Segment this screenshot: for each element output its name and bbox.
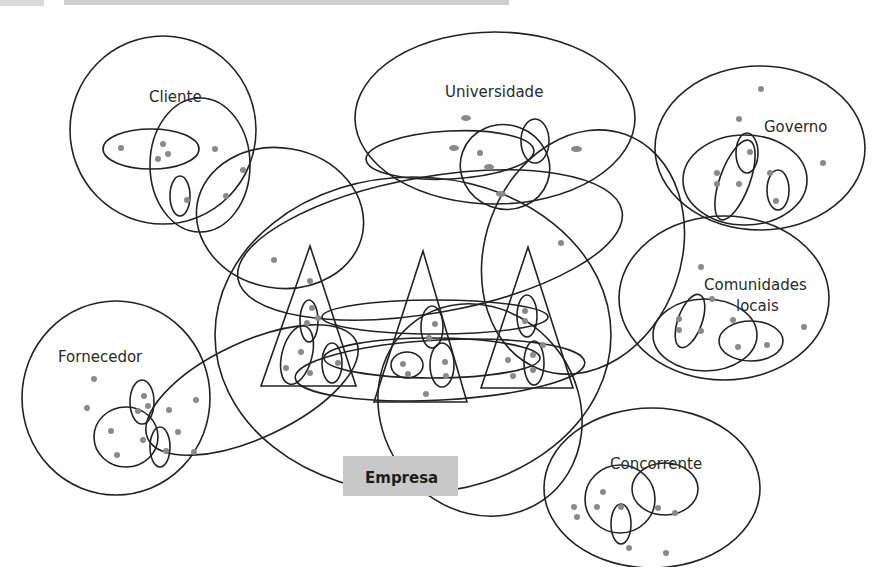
label-universidade: Universidade	[445, 83, 543, 101]
actor-concorrente	[544, 408, 760, 567]
network-diagram: Cliente Universidade Governo Comunidades…	[0, 0, 883, 567]
empresa-node: Empresa	[343, 456, 458, 496]
label-concorrente: Concorrente	[610, 455, 702, 473]
label-empresa: Empresa	[365, 469, 438, 487]
label-cliente: Cliente	[149, 88, 202, 106]
label-comunidades-2: locais	[736, 297, 779, 315]
actor-comunidades	[619, 216, 829, 380]
label-comunidades-1: Comunidades	[704, 276, 807, 294]
empresa-body	[215, 177, 611, 493]
internal-unit-2	[374, 251, 467, 402]
label-fornecedor: Fornecedor	[58, 348, 143, 366]
label-governo: Governo	[764, 118, 828, 136]
